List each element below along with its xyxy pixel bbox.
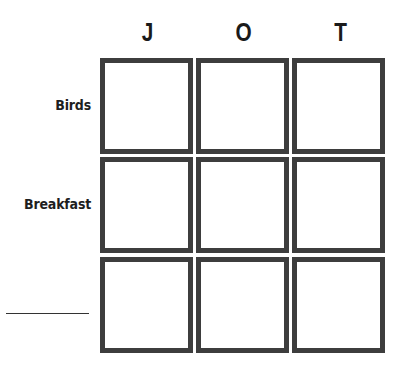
row-label-1: Birds [55,97,91,113]
cell-r1-c2[interactable] [196,58,289,154]
column-header-2: O [206,17,282,48]
cell-r3-c3[interactable] [292,257,385,353]
column-header-1: J [110,17,186,48]
cell-r2-c1[interactable] [100,157,193,253]
cell-r3-c2[interactable] [196,257,289,353]
cell-r2-c3[interactable] [292,157,385,253]
row-label-3-blank-line[interactable] [6,313,89,314]
cell-r1-c1[interactable] [100,58,193,154]
cell-r3-c1[interactable] [100,257,193,353]
cell-r1-c3[interactable] [292,58,385,154]
cell-r2-c2[interactable] [196,157,289,253]
column-header-3: T [303,17,379,48]
row-label-2: Breakfast [24,196,91,212]
